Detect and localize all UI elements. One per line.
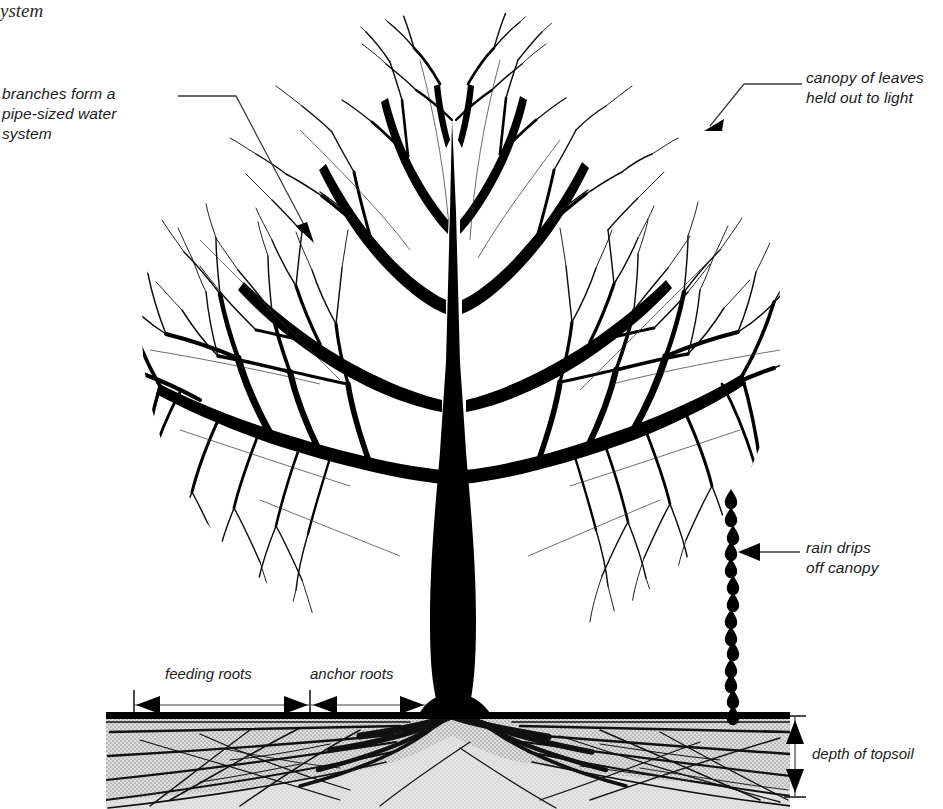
figure-canvas: branches form a pipe-sized water system …: [0, 0, 943, 809]
callout-rain-drips: rain drips off canopy: [806, 538, 926, 578]
leader-arrowheads: [296, 119, 760, 561]
callout-canopy-of-leaves: canopy of leaves held out to light: [806, 68, 943, 108]
callout-branches-water-system: branches form a pipe-sized water system: [2, 84, 177, 144]
dimension-label-anchor-roots: anchor roots: [310, 665, 393, 682]
callout-depth-of-topsoil: depth of topsoil: [812, 745, 914, 762]
raindrop-column: [725, 489, 739, 725]
dimension-label-feeding-roots: feeding roots: [165, 665, 252, 682]
